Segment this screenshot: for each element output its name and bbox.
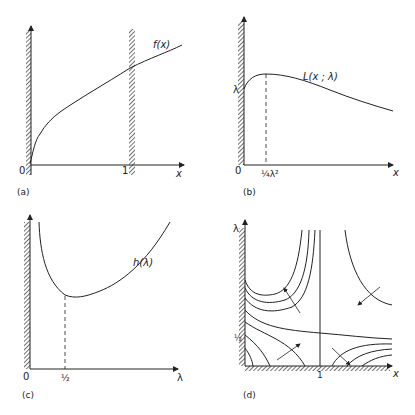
direction-arrow (358, 287, 380, 305)
level-curve (245, 348, 253, 366)
x-axis-label: x (175, 168, 182, 179)
curve-label: f(x) (153, 39, 170, 50)
x-tick-label: 1 (317, 370, 323, 380)
wall-right (129, 29, 135, 175)
level-curve (245, 230, 302, 295)
panel-d: λ ½ 1 x (d) (233, 220, 399, 400)
panel-c: h(λ) 0 ½ λ (c) (22, 215, 183, 400)
panel-b: L(x ; λ) λ 0 ¼λ² x (b) (233, 17, 399, 197)
level-curve (245, 335, 270, 366)
caption: (a) (17, 187, 30, 197)
direction-arrow (332, 348, 350, 365)
caption: (c) (22, 390, 34, 400)
level-curve (345, 230, 392, 305)
level-curve (245, 230, 309, 302)
y-tick-label: ½ (234, 334, 242, 343)
origin-label: 0 (235, 165, 241, 176)
x-axis-label: x (392, 368, 399, 379)
curve-label: L(x ; λ) (303, 71, 338, 82)
level-curve (245, 322, 305, 366)
caption: (b) (243, 187, 256, 197)
tick-label: 1 (122, 165, 128, 176)
figure: f(x) 0 1 x (a) L(x ; λ) λ 0 ¼λ² x (b) h(… (0, 0, 415, 415)
direction-arrow (277, 344, 300, 360)
panel-a: f(x) 0 1 x (a) (17, 26, 184, 197)
curve-f (30, 45, 182, 164)
y-axis-label: λ (233, 223, 239, 234)
x-axis-label: x (392, 167, 399, 178)
origin-label: 0 (23, 371, 29, 382)
wall-left (239, 228, 245, 366)
wall-left (26, 30, 31, 175)
level-curve (362, 355, 392, 366)
x-tick-label: ½ (61, 373, 70, 383)
level-curve (347, 349, 392, 366)
x-axis-label: λ (177, 372, 183, 383)
caption: (d) (243, 390, 256, 400)
curve-label: h(λ) (133, 257, 153, 268)
y-tick-label: λ (233, 84, 239, 95)
origin-label: 0 (19, 165, 25, 176)
wall-left (24, 222, 30, 369)
x-tick-label: ¼λ² (261, 169, 279, 179)
